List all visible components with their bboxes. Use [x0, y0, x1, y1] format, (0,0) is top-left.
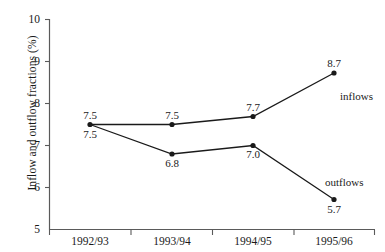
- y-axis-ticks: [45, 20, 50, 188]
- y-tick-label-8: 8: [14, 97, 40, 109]
- x-tick-label-1995-96: 1995/96: [289, 235, 379, 247]
- data-label-outflow-0: 7.5: [70, 128, 110, 140]
- y-tick-label-7: 7: [14, 139, 40, 151]
- data-label-outflow-2: 7.0: [233, 148, 273, 160]
- series-line-outflows: [90, 125, 334, 200]
- line-chart-figure: Inflow and outflow fractions (%) 10 9 8 …: [0, 0, 385, 252]
- series-annotation-outflows: outflows: [325, 176, 364, 188]
- x-tick-label-1993-94: 1993/94: [127, 235, 217, 247]
- data-label-outflow-1: 6.8: [152, 157, 192, 169]
- data-label-inflow-0: 7.5: [70, 109, 110, 121]
- x-tick-label-1992-93: 1992/93: [45, 235, 135, 247]
- y-tick-label-10: 10: [14, 13, 40, 25]
- data-label-inflow-1: 7.5: [152, 109, 192, 121]
- series-markers-inflows: [87, 70, 336, 127]
- data-label-outflow-3: 5.7: [314, 203, 354, 215]
- y-tick-label-9: 9: [14, 55, 40, 67]
- x-tick-label-1994-95: 1994/95: [208, 235, 298, 247]
- data-label-inflow-2: 7.7: [233, 101, 273, 113]
- data-label-inflow-3: 8.7: [314, 57, 354, 69]
- series-line-inflows: [90, 73, 334, 125]
- y-tick-label-5: 5: [14, 223, 40, 235]
- y-tick-label-6: 6: [14, 181, 40, 193]
- series-annotation-inflows: inflows: [340, 90, 373, 102]
